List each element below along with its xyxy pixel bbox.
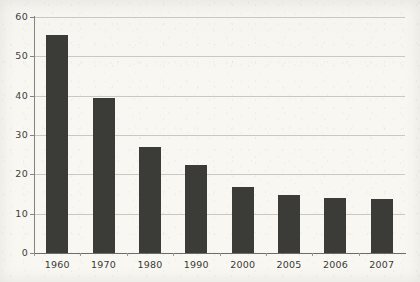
bar-2006[interactable] — [324, 198, 346, 253]
x-tick-label-2006: 2006 — [312, 259, 358, 270]
bar-2005[interactable] — [278, 195, 300, 253]
bar-1990[interactable] — [185, 165, 207, 253]
x-tick-mark-2007 — [359, 253, 360, 256]
bar-slot-1970 — [80, 17, 126, 253]
bar-1970[interactable] — [93, 98, 115, 253]
bar-slot-2006 — [312, 17, 358, 253]
x-tick-label-1990: 1990 — [173, 259, 219, 270]
y-tick-label-50: 50 — [2, 50, 28, 61]
x-tick-label-2000: 2000 — [220, 259, 266, 270]
bar-slot-1980 — [127, 17, 173, 253]
bar-chart: 0102030405060 19601970198019902000200520… — [0, 0, 420, 282]
bar-1960[interactable] — [46, 35, 68, 253]
bar-2000[interactable] — [232, 187, 254, 253]
bar-slot-2000 — [220, 17, 266, 253]
bar-slot-1990 — [173, 17, 219, 253]
x-tick-mark-1960 — [34, 253, 35, 256]
x-tick-mark-1980 — [127, 253, 128, 256]
x-tick-mark-2005 — [266, 253, 267, 256]
x-tick-label-2007: 2007 — [359, 259, 405, 270]
y-tick-label-40: 40 — [2, 90, 28, 101]
x-tick-label-1970: 1970 — [80, 259, 126, 270]
y-tick-label-30: 30 — [2, 129, 28, 140]
y-tick-label-10: 10 — [2, 208, 28, 219]
x-tick-mark-1990 — [173, 253, 174, 256]
x-tick-label-2005: 2005 — [266, 259, 312, 270]
x-tick-mark-2006 — [312, 253, 313, 256]
x-tick-mark-1970 — [80, 253, 81, 256]
y-tick-label-0: 0 — [2, 247, 28, 258]
x-tick-label-1960: 1960 — [34, 259, 80, 270]
bar-slot-2005 — [266, 17, 312, 253]
bar-2007[interactable] — [371, 199, 393, 253]
x-tick-mark-2000 — [220, 253, 221, 256]
y-tick-label-60: 60 — [2, 11, 28, 22]
bar-slot-1960 — [34, 17, 80, 253]
x-tick-label-1980: 1980 — [127, 259, 173, 270]
y-tick-label-20: 20 — [2, 168, 28, 179]
bar-group — [34, 17, 405, 253]
bar-slot-2007 — [359, 17, 405, 253]
bar-1980[interactable] — [139, 147, 161, 253]
